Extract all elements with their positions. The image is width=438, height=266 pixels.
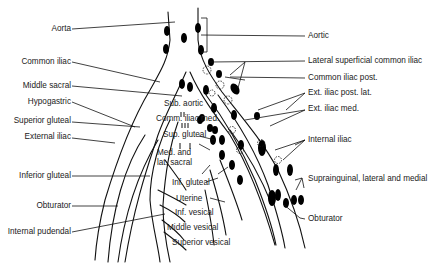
label-inferior-gluteal: Inferior gluteal — [19, 171, 71, 181]
pelvic-lymph-diagram: Aorta Common iliac Middle sacral Hypogas… — [0, 0, 438, 266]
label-med-lat-sacral-1: Med. and — [157, 148, 191, 158]
label-sup-gluteal: Sup. gluteal — [163, 130, 206, 140]
label-aorta: Aorta — [51, 24, 71, 34]
label-inf-gluteal: Inf. gluteal — [172, 178, 210, 188]
label-lateral-superficial-common-iliac: Lateral superficial common iliac — [308, 56, 422, 66]
label-suprainguinal: Suprainguinal, lateral and medial — [308, 174, 427, 184]
label-aortic: Aortic — [308, 31, 329, 41]
label-sub-aortic: Sub. aortic — [164, 99, 203, 109]
label-common-iliac-post: Common iliac post. — [308, 73, 378, 83]
label-inf-vesical: Inf. vesical — [175, 208, 214, 218]
label-obturator-artery: Obturator — [36, 201, 71, 211]
label-ext-iliac-med: Ext. iliac med. — [308, 104, 359, 114]
label-uterine: Uterine — [176, 194, 202, 204]
label-superior-gluteal: Superior gluteal — [14, 116, 71, 126]
label-med-lat-sacral-2: lat. sacral — [157, 158, 192, 168]
label-common-iliac: Common iliac — [21, 57, 71, 67]
label-obturator-node: Obturator — [308, 214, 343, 224]
label-middle-vesical: Middle vesical — [167, 223, 218, 233]
label-internal-pudendal: Internal pudendal — [8, 227, 71, 237]
label-hypogastric: Hypogastric — [28, 97, 71, 107]
label-superior-vesical: Superior vesical — [172, 238, 230, 248]
label-comm-iliac-med: Comm. iliac med. — [156, 114, 219, 124]
label-ext-iliac-post-lat: Ext. iliac post. lat. — [308, 88, 372, 98]
label-middle-sacral: Middle sacral — [23, 81, 71, 91]
label-internal-iliac: Internal iliac — [308, 135, 352, 145]
label-external-iliac: External iliac — [25, 132, 71, 142]
